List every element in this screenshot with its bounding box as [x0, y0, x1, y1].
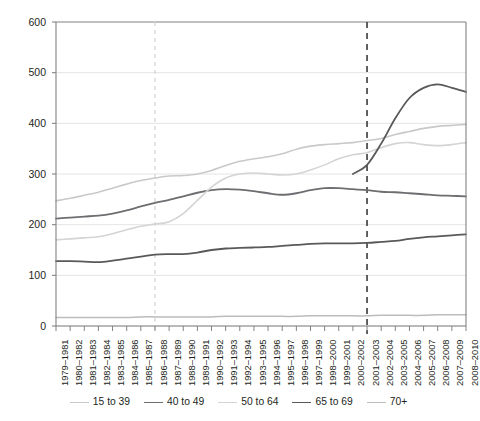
legend-label: 40 to 49 [167, 396, 204, 408]
x-tick-label-24: 2003–2005 [399, 339, 409, 386]
legend-label: 70+ [390, 396, 407, 408]
x-tick-label-15: 1994–1996 [272, 339, 282, 386]
legend-swatch-icon [144, 402, 163, 403]
legend-item-70-[interactable]: 70+ [367, 396, 407, 408]
legend-item-40-to-49[interactable]: 40 to 49 [144, 396, 204, 408]
x-tick-label-2: 1981–1983 [88, 339, 98, 386]
chart-legend: 15 to 3940 to 4950 to 6465 to 6970+ [0, 396, 477, 408]
x-tick-label-26: 2005–2007 [427, 339, 437, 386]
legend-swatch-icon [70, 402, 89, 403]
x-tick-label-29: 2008–2010 [470, 339, 480, 386]
x-tick-label-4: 1983–1985 [116, 339, 126, 386]
x-tick-label-14: 1993–1995 [258, 339, 268, 386]
x-tick-label-25: 2004–2006 [413, 339, 423, 386]
series-line-70- [56, 315, 466, 318]
legend-swatch-icon [218, 402, 237, 403]
x-tick-label-10: 1989–1991 [201, 339, 211, 386]
x-tick-label-6: 1985–1987 [144, 339, 154, 386]
x-tick-label-7: 1986–1988 [159, 339, 169, 386]
x-tick-label-5: 1984–1986 [130, 339, 140, 386]
x-tick-label-22: 2001–2003 [371, 339, 381, 386]
x-tick-label-18: 1997–1999 [314, 339, 324, 386]
x-tick-label-8: 1987–1989 [173, 339, 183, 386]
x-tick-label-20: 1999–2001 [342, 339, 352, 386]
x-tick-label-27: 2006–2008 [441, 339, 451, 386]
x-tick-label-3: 1982–1984 [102, 339, 112, 386]
series-line-65-to-69-upper- [353, 84, 466, 174]
series-line-40-to-49 [56, 188, 466, 219]
x-tick-label-1: 1980–1982 [74, 339, 84, 386]
legend-item-50-to-64[interactable]: 50 to 64 [218, 396, 278, 408]
x-tick-label-23: 2002–2004 [385, 339, 395, 386]
x-tick-label-16: 1995–1997 [286, 339, 296, 386]
legend-item-65-to-69[interactable]: 65 to 69 [292, 396, 352, 408]
x-tick-label-9: 1988–1990 [187, 339, 197, 386]
legend-swatch-icon [367, 402, 386, 403]
x-tick-label-13: 1992–1994 [243, 339, 253, 386]
x-tick-label-19: 1998–2000 [328, 339, 338, 386]
series-line-65-to-69 [56, 234, 466, 262]
x-tick-label-17: 1996–1998 [300, 339, 310, 386]
legend-swatch-icon [292, 402, 311, 403]
legend-label: 15 to 39 [93, 396, 130, 408]
x-tick-label-21: 2000–2002 [356, 339, 366, 386]
legend-item-15-to-39[interactable]: 15 to 39 [70, 396, 130, 408]
series-line-15-to-39 [56, 124, 466, 201]
x-tick-label-28: 2007–2009 [455, 339, 465, 386]
x-tick-label-0: 1979–1981 [60, 339, 70, 386]
x-tick-label-12: 1991–1993 [229, 339, 239, 386]
x-tick-label-11: 1990–1992 [215, 339, 225, 386]
legend-label: 65 to 69 [315, 396, 352, 408]
legend-label: 50 to 64 [241, 396, 278, 408]
